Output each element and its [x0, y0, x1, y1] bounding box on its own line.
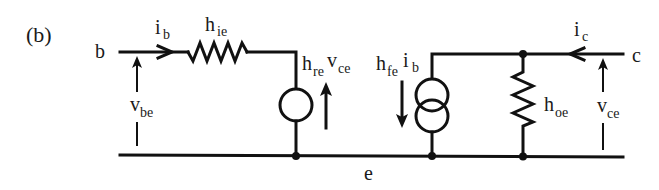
- collector-terminal-label: c: [632, 44, 641, 66]
- vce-label-main: v: [597, 94, 607, 116]
- base-current-label-sub: b: [163, 27, 170, 42]
- hie-label-main: h: [205, 13, 215, 35]
- hre-label-sub: re: [313, 64, 324, 79]
- base-current-label-main: i: [155, 16, 161, 38]
- vbe-label-main: v: [130, 93, 140, 115]
- emitter-common-wire: [120, 155, 623, 157]
- collector-top-wire: [432, 54, 623, 80]
- hoe-label-sub: oe: [555, 105, 568, 120]
- vce-label-sub: ce: [607, 106, 619, 121]
- emitter-terminal-label: e: [364, 162, 373, 184]
- hre-label-main: h: [302, 52, 312, 74]
- hoe-resistor: [513, 54, 533, 156]
- collector-current-label-sub: c: [582, 29, 588, 44]
- hfe-label-sub: fe: [387, 64, 398, 79]
- vbe-label-sub: be: [140, 105, 153, 120]
- resistor-to-source-wire: [247, 52, 296, 89]
- hre-vce-label-main: v: [327, 49, 337, 71]
- base-terminal-label: b: [95, 40, 105, 62]
- hfe-ib-label-main: i: [403, 49, 409, 71]
- hre-vce-label-sub: ce: [338, 61, 350, 76]
- hie-label-sub: ie: [217, 24, 227, 39]
- hie-resistor: [188, 43, 247, 61]
- figure-label: (b): [26, 22, 52, 47]
- hre-vce-voltage-source: [280, 89, 312, 121]
- hoe-label-main: h: [544, 93, 554, 115]
- hfe-label-main: h: [376, 52, 386, 74]
- hfe-ib-label-sub: b: [412, 60, 419, 75]
- collector-current-label-main: i: [574, 18, 580, 40]
- h-parameter-circuit: (b) b i b h ie v be h re v ce h fe i b: [0, 0, 659, 190]
- junction-node: [292, 152, 300, 160]
